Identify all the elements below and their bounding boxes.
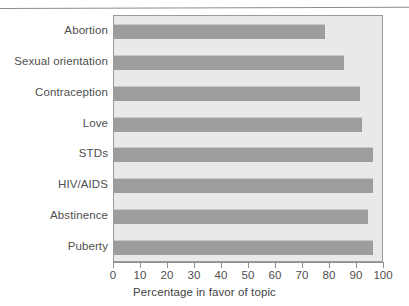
bar: [114, 24, 384, 39]
bar-chart-figure: AbortionSexual orientationContraceptionL…: [0, 0, 409, 306]
x-axis-title: Percentage in favor of topic: [0, 286, 409, 298]
bar: [114, 147, 384, 162]
bar: [114, 209, 384, 224]
bar: [114, 55, 384, 70]
bar-fill: [114, 209, 368, 224]
x-tick-mark: [329, 262, 330, 268]
x-tick-mark: [275, 262, 276, 268]
category-label: Contraception: [0, 85, 108, 100]
category-label: Abstinence: [0, 208, 108, 223]
category-label: Abortion: [0, 23, 108, 38]
x-tick-mark: [167, 262, 168, 268]
category-label: STDs: [0, 146, 108, 161]
bar: [114, 86, 384, 101]
x-tick-mark: [383, 262, 384, 268]
x-tick-mark: [140, 262, 141, 268]
x-tick-mark: [194, 262, 195, 268]
bar-fill: [114, 117, 362, 132]
bar-fill: [114, 24, 325, 39]
category-label: Sexual orientation: [0, 54, 108, 69]
bar-fill: [114, 55, 344, 70]
bar-fill: [114, 86, 360, 101]
bar: [114, 117, 384, 132]
bar-fill: [114, 147, 373, 162]
x-tick-mark: [356, 262, 357, 268]
x-tick-mark: [302, 262, 303, 268]
plot-area: [113, 15, 383, 262]
x-tick-mark: [248, 262, 249, 268]
bar: [114, 240, 384, 255]
top-horizontal-rule: [0, 7, 409, 9]
category-label: Puberty: [0, 239, 108, 254]
category-label: HIV/AIDS: [0, 177, 108, 192]
bar: [114, 178, 384, 193]
bar-fill: [114, 240, 373, 255]
x-tick-label: 100: [363, 269, 403, 281]
x-tick-mark: [221, 262, 222, 268]
category-label: Love: [0, 116, 108, 131]
bar-fill: [114, 178, 373, 193]
x-tick-mark: [113, 262, 114, 268]
